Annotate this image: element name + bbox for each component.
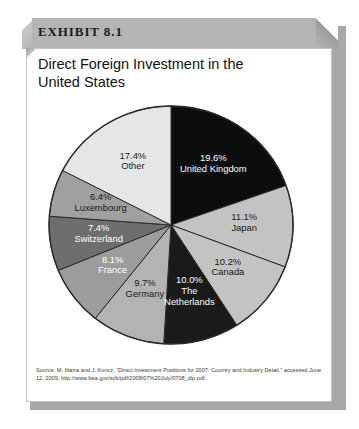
band-fold-left-decoration [22,18,32,49]
pie-slice-label: 8.1%France [98,254,127,276]
exhibit-figure: EXHIBIT 8.1 Direct Foreign Investment in… [0,0,359,429]
pie-slice-label: 11.1%Japan [231,211,257,233]
source-note: Source: M. Ibarra and J. Koncz, “Direct … [36,366,322,383]
source-note-url: http://www.bea.gov/scb/pdf/2008/07%20Jul… [61,375,206,381]
exhibit-label: EXHIBIT 8.1 [38,24,123,40]
pie-chart: 19.6%United Kingdom11.1%Japan10.2%Canada… [46,104,296,346]
chart-title: Direct Foreign Investment in the United … [38,55,288,91]
pie-chart-svg: 19.6%United Kingdom11.1%Japan10.2%Canada… [46,104,296,346]
pie-slice-label: 17.4%Other [120,150,147,172]
card-corner-notch-decoration [26,48,35,57]
pie-slice-label: 10.2%Canada [211,256,245,278]
band-fold-corner-decoration [316,18,338,49]
